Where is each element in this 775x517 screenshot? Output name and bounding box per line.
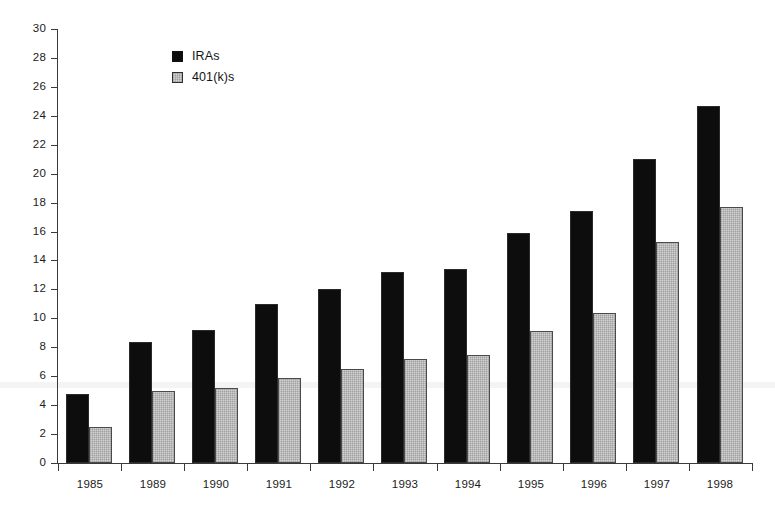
y-axis-tick-label: 20 <box>6 168 46 180</box>
y-axis-tick-label: 24 <box>6 110 46 122</box>
x-axis-tick <box>563 464 564 471</box>
y-axis-tick-label: 0 <box>6 457 46 469</box>
x-axis-tick-label-1992: 1992 <box>307 478 377 490</box>
bar-iras-1989 <box>129 342 152 464</box>
y-axis-tick-label: 12 <box>6 283 46 295</box>
x-axis-tick-label-1990: 1990 <box>181 478 251 490</box>
y-axis-tick-label: 28 <box>6 52 46 64</box>
bar-iras-1996 <box>570 211 593 463</box>
y-axis-tick <box>51 434 58 435</box>
y-axis-tick <box>51 174 58 175</box>
bar-iras-1995 <box>507 233 530 463</box>
x-axis-line <box>57 463 753 464</box>
y-axis-tick-label: 30 <box>6 23 46 35</box>
bar-chart: 024681012141618202224262830 198519891990… <box>0 0 775 517</box>
x-axis-tick <box>437 464 438 471</box>
bar-iras-1997 <box>633 159 656 463</box>
y-axis-tick <box>51 405 58 406</box>
y-axis-tick-label: 10 <box>6 312 46 324</box>
bar-401k-1996 <box>593 313 616 464</box>
bar-401k-1991 <box>278 378 301 463</box>
bar-iras-1985 <box>66 394 89 463</box>
y-axis-tick <box>51 203 58 204</box>
y-axis-tick <box>51 145 58 146</box>
x-axis-tick <box>121 464 122 471</box>
y-axis-tick-label: 6 <box>6 370 46 382</box>
x-axis-tick-label-1993: 1993 <box>370 478 440 490</box>
x-axis-tick <box>58 464 59 471</box>
y-axis-tick <box>51 58 58 59</box>
bar-iras-1993 <box>381 272 404 463</box>
bar-401k-1995 <box>530 331 553 463</box>
x-axis-tick-label-1991: 1991 <box>244 478 314 490</box>
bar-401k-1994 <box>467 355 490 464</box>
bar-401k-1998 <box>720 207 743 463</box>
y-axis-tick <box>51 289 58 290</box>
x-axis-tick <box>373 464 374 471</box>
x-axis-tick-label-1994: 1994 <box>433 478 503 490</box>
x-axis-tick <box>689 464 690 471</box>
y-axis-tick-label: 2 <box>6 428 46 440</box>
x-axis-tick-label-1989: 1989 <box>118 478 188 490</box>
y-axis-tick-label: 26 <box>6 81 46 93</box>
black-filled-square-icon <box>172 51 183 62</box>
bar-iras-1994 <box>444 269 467 463</box>
bar-iras-1992 <box>318 289 341 463</box>
gray-hatched-square-icon <box>172 72 183 83</box>
y-axis-tick <box>51 463 58 464</box>
legend-label-iras: IRAs <box>192 50 220 63</box>
y-axis-tick <box>51 87 58 88</box>
legend-item-iras: IRAs <box>172 46 234 67</box>
y-axis-tick-label: 18 <box>6 197 46 209</box>
bar-iras-1991 <box>255 304 278 463</box>
bar-401k-1992 <box>341 369 364 463</box>
x-axis-tick-label-1985: 1985 <box>55 478 125 490</box>
x-axis-tick <box>500 464 501 471</box>
bar-401k-1985 <box>89 427 112 463</box>
y-axis-tick-label: 4 <box>6 399 46 411</box>
x-axis-tick <box>310 464 311 471</box>
y-axis-tick <box>51 318 58 319</box>
y-axis-tick <box>51 29 58 30</box>
y-axis-tick <box>51 260 58 261</box>
bar-401k-1993 <box>404 359 427 463</box>
y-axis-tick <box>51 116 58 117</box>
x-axis-tick-label-1996: 1996 <box>559 478 629 490</box>
y-axis-tick-label: 14 <box>6 254 46 266</box>
x-axis-tick-label-1998: 1998 <box>685 478 755 490</box>
x-axis-tick-label-1995: 1995 <box>496 478 566 490</box>
y-axis-tick <box>51 347 58 348</box>
bar-iras-1990 <box>192 330 215 463</box>
bar-401k-1989 <box>152 391 175 463</box>
x-axis-tick <box>247 464 248 471</box>
y-axis-tick-label: 8 <box>6 341 46 353</box>
bar-401k-1990 <box>215 388 238 463</box>
y-axis-tick <box>51 232 58 233</box>
y-axis-tick-label: 22 <box>6 139 46 151</box>
y-axis-tick <box>51 376 58 377</box>
chart-legend: IRAs 401(k)s <box>172 46 234 88</box>
x-axis-tick <box>752 464 753 471</box>
x-axis-tick <box>184 464 185 471</box>
bar-401k-1997 <box>656 242 679 463</box>
x-axis-tick <box>626 464 627 471</box>
x-axis-tick-label-1997: 1997 <box>622 478 692 490</box>
legend-label-401k: 401(k)s <box>192 71 234 84</box>
y-axis-tick-label: 16 <box>6 226 46 238</box>
plot-area <box>58 29 752 463</box>
bar-iras-1998 <box>697 106 720 463</box>
legend-item-401k: 401(k)s <box>172 67 234 88</box>
